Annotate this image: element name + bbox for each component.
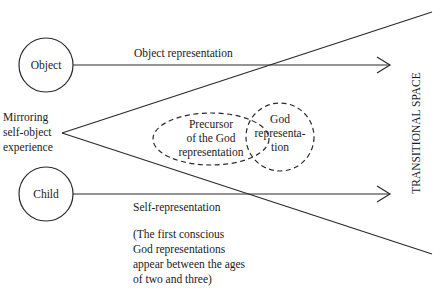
transitional-space-label: TRANSITIONAL SPACE [410,72,422,194]
precursor-line-2: of the God [186,132,235,144]
note-line-1: (The first conscious [133,228,225,241]
precursor-label: Precursor of the God representation [178,118,243,159]
object-label: Object [31,59,62,72]
object-representation-label: Object representation [134,47,233,60]
precursor-line-1: Precursor [189,118,233,130]
age-note: (The first conscious God representations… [133,228,246,286]
mirroring-label: Mirroring self-object experience [3,111,53,154]
precursor-line-3: representation [178,146,243,159]
god-line-1: God [270,113,290,125]
god-line-2: representa- [254,127,305,140]
note-line-3: appear between the ages [133,258,246,271]
cone-upper-line [62,12,432,133]
mirroring-line-1: Mirroring [3,111,49,124]
note-line-4: of two and three) [133,273,212,286]
mirroring-line-3: experience [3,141,53,154]
self-representation-label: Self-representation [133,201,221,214]
god-representation-label: God representa- tion [254,113,305,153]
child-label: Child [33,188,59,200]
mirroring-line-2: self-object [3,126,52,139]
note-line-2: God representations [133,243,226,256]
diagram-canvas: Object Child Object representation Self-… [0,0,442,292]
god-line-3: tion [271,141,289,153]
